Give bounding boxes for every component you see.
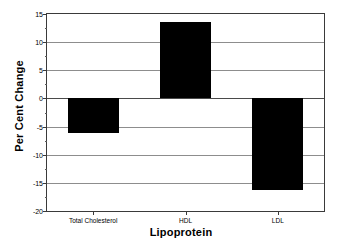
y-tick-label: 5 bbox=[39, 67, 43, 74]
y-tick-label: 15 bbox=[35, 11, 43, 18]
x-tick-mark bbox=[93, 211, 94, 215]
x-axis-title: Lipoprotein bbox=[36, 226, 326, 238]
bar bbox=[68, 98, 119, 133]
bar-chart: Per Cent Change 151050-5-10-15-20 Total … bbox=[0, 0, 343, 247]
y-tick-label: -20 bbox=[33, 208, 43, 215]
bar bbox=[252, 98, 303, 189]
x-tick-label: Total Cholesterol bbox=[69, 217, 117, 224]
bar bbox=[160, 22, 211, 98]
y-tick-mark bbox=[43, 211, 47, 212]
x-tick-label: LDL bbox=[272, 217, 284, 224]
x-tick-mark bbox=[186, 211, 187, 215]
x-tick-label: HDL bbox=[179, 217, 192, 224]
x-tick-mark bbox=[278, 211, 279, 215]
y-axis-title: Per Cent Change bbox=[10, 0, 28, 212]
y-tick-label: 10 bbox=[35, 39, 43, 46]
bars-layer bbox=[47, 14, 324, 211]
y-tick-label: 0 bbox=[39, 95, 43, 102]
y-tick-label: -5 bbox=[37, 123, 43, 130]
y-tick-label: -15 bbox=[33, 179, 43, 186]
y-tick-label: -10 bbox=[33, 151, 43, 158]
plot-area: 151050-5-10-15-20 Total CholesterolHDLLD… bbox=[46, 13, 325, 212]
